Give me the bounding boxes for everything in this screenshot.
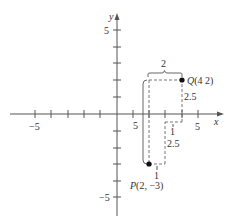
x-tick-label-neg5: −5: [29, 121, 40, 132]
top-brace-label: 2: [161, 58, 166, 69]
y-axis-arrow-icon: [115, 13, 120, 20]
x-axis-label: x: [213, 116, 219, 127]
y-tick-label-5: 5: [104, 25, 109, 36]
x-tick-label-5: 5: [195, 121, 200, 132]
mid-horizontal-label: 1: [170, 126, 175, 137]
mid-vertical-label: 2.5: [167, 138, 180, 149]
outer-bracket-line: [143, 80, 147, 164]
stray-tick-label-5: 5: [133, 120, 138, 131]
point-p-label: P(2, −3): [129, 180, 163, 192]
y-axis-label: y: [108, 11, 114, 22]
top-brace: [148, 71, 182, 78]
point-q-marker: [179, 77, 184, 82]
right-vertical-label: 2.5: [184, 91, 197, 102]
y-tick-label-neg5: −5: [99, 192, 110, 203]
point-p-marker: [146, 161, 151, 166]
point-q-label: Q(4 2): [187, 75, 213, 87]
coordinate-plane-diagram: y 5 −5 x −5 5 5 2 1 1 2.5 2.5 Q(4 2) P(2…: [0, 0, 230, 221]
